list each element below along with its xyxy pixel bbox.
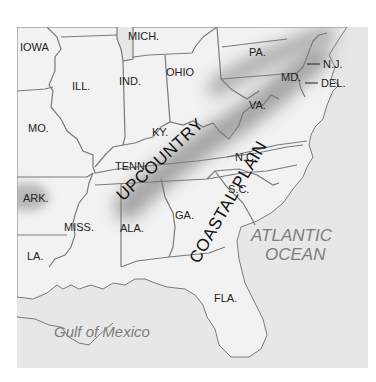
state-label-md: MD. [281, 72, 301, 83]
map-panel: IOWA MICH. PA. N.J. ILL. IND. OHIO MD. D… [17, 27, 368, 368]
state-label-mo: MO. [28, 123, 49, 134]
map-graphic [17, 27, 368, 368]
state-label-nj: N.J. [323, 59, 343, 70]
state-label-pa: PA. [249, 47, 266, 58]
state-label-iowa: IOWA [20, 42, 49, 53]
state-label-va: VA. [249, 100, 266, 111]
state-label-la: LA. [27, 251, 44, 262]
water-label-gulf-of-mexico: Gulf of Mexico [54, 324, 150, 339]
state-label-fla: FLA. [214, 293, 237, 304]
state-label-del: DEL. [321, 78, 345, 89]
state-label-ill: ILL. [72, 81, 90, 92]
state-label-ga: GA. [175, 210, 194, 221]
state-label-ala: ALA. [120, 223, 144, 234]
water-label-ocean: OCEAN [265, 246, 325, 263]
state-label-miss: MISS. [64, 222, 94, 233]
state-label-ohio: OHIO [166, 67, 194, 78]
state-label-ark: ARK. [23, 193, 49, 204]
state-label-ind: IND. [119, 76, 141, 87]
state-label-mich: MICH. [128, 31, 159, 42]
state-label-ky: KY. [152, 127, 168, 138]
water-label-atlantic: ATLANTIC [251, 227, 332, 244]
